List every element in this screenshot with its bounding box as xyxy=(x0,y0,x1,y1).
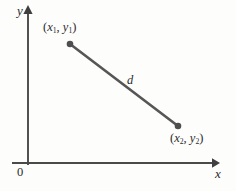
distance-segment xyxy=(70,44,178,126)
y-axis-label: y xyxy=(17,4,23,17)
diagram-canvas xyxy=(0,0,236,191)
x-axis-label: x xyxy=(215,167,221,180)
point-1-label: (x1, y1) xyxy=(43,21,76,35)
point-2-marker xyxy=(175,123,182,130)
y-axis-arrowhead xyxy=(23,5,32,14)
x-axis-label-text: x xyxy=(215,166,221,181)
distance-label-text: d xyxy=(127,73,133,87)
point-1-close-paren: ) xyxy=(72,20,76,34)
point-2-label: (x2, y2) xyxy=(170,132,203,146)
point-1-marker xyxy=(67,41,74,48)
distance-formula-figure: y x 0 (x1, y1) (x2, y2) d xyxy=(0,0,236,191)
origin-label: 0 xyxy=(17,166,23,179)
distance-label: d xyxy=(127,74,133,87)
origin-label-text: 0 xyxy=(17,165,23,179)
point-2-close-paren: ) xyxy=(199,131,203,145)
y-axis-label-text: y xyxy=(17,3,23,18)
